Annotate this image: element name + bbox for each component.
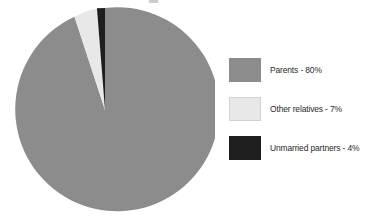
pie-chart-svg	[0, 0, 215, 219]
pie-slice-parents[interactable]	[15, 7, 215, 211]
legend-swatch-unmarried-partners	[229, 136, 261, 160]
legend-label-parents: Parents - 80%	[270, 65, 322, 76]
legend-label-unmarried-partners: Unmarried partners - 4%	[270, 143, 359, 154]
pie-chart-plot-area	[0, 0, 215, 219]
legend-item-other-relatives[interactable]: Other relatives - 7%	[229, 97, 372, 121]
legend-item-unmarried-partners[interactable]: Unmarried partners - 4%	[229, 136, 372, 160]
legend-label-other-relatives: Other relatives - 7%	[270, 104, 342, 115]
legend-swatch-parents	[229, 58, 261, 82]
pie-chart-figure: Parents - 80% Other relatives - 7% Unmar…	[0, 0, 372, 219]
legend-swatch-other-relatives	[229, 97, 261, 121]
legend-item-parents[interactable]: Parents - 80%	[229, 58, 372, 82]
chart-legend: Parents - 80% Other relatives - 7% Unmar…	[229, 58, 372, 160]
